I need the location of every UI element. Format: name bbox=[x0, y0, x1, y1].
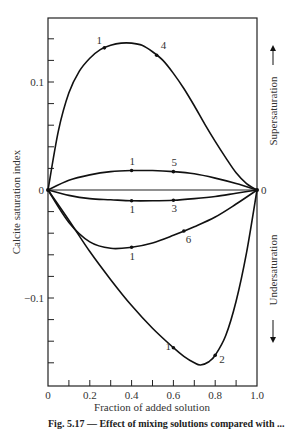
curve-point-label: 2 bbox=[219, 353, 225, 365]
undersaturation-label: Undersaturation bbox=[267, 234, 279, 305]
arrow-marker-icon bbox=[172, 170, 176, 174]
curve-point-label: 1 bbox=[130, 203, 136, 215]
y-tick-label: 0.1 bbox=[30, 76, 44, 88]
end-point bbox=[255, 188, 259, 192]
curve-labels: 1415131612 bbox=[46, 34, 259, 365]
supersaturation-label: Supersaturation bbox=[267, 76, 279, 146]
x-tick-label: 0 bbox=[45, 389, 51, 401]
x-tick-label: 0.8 bbox=[208, 389, 222, 401]
x-tick-label: 1.0 bbox=[250, 389, 264, 401]
curve-point-label: 6 bbox=[186, 233, 192, 245]
y-axis-title: Calcite saturation index bbox=[10, 149, 22, 254]
curve-point-label: 3 bbox=[171, 202, 177, 214]
x-axis-title: Fraction of added solution bbox=[94, 401, 210, 413]
y-tick-label: −0.1 bbox=[24, 292, 44, 304]
plot-frame bbox=[48, 18, 257, 386]
curve-point-label: 1 bbox=[165, 340, 171, 352]
arrow-marker-icon bbox=[155, 53, 159, 57]
chart: 00.20.40.60.81.00.10−0.1 1415131612 Calc… bbox=[0, 0, 294, 415]
right-zero-label: 0 bbox=[261, 184, 267, 196]
curve-1-2 bbox=[48, 190, 257, 365]
x-tick-label: 0.4 bbox=[125, 389, 139, 401]
curve-1-6 bbox=[48, 190, 257, 249]
arrow-marker-icon bbox=[130, 169, 134, 173]
curve-point-label: 1 bbox=[96, 34, 102, 46]
curve-point-label: 5 bbox=[171, 156, 177, 168]
arrow-marker-icon bbox=[172, 346, 176, 350]
axis-ticks bbox=[48, 39, 236, 386]
curves bbox=[48, 43, 257, 365]
curve-1-5 bbox=[48, 170, 257, 190]
curve-1-4 bbox=[48, 43, 257, 190]
arrow-marker-icon bbox=[103, 46, 107, 50]
curve-1-3 bbox=[48, 190, 257, 201]
curve-point-label: 1 bbox=[130, 155, 136, 167]
arrow-marker-icon bbox=[130, 245, 134, 249]
figure-caption: Fig. 5.17 — Effect of mixing solutions c… bbox=[48, 418, 284, 429]
x-tick-label: 0.2 bbox=[83, 389, 97, 401]
arrow-marker-icon bbox=[213, 353, 217, 357]
y-tick-label: 0 bbox=[39, 184, 45, 196]
curve-point-label: 1 bbox=[130, 250, 136, 262]
x-tick-label: 0.6 bbox=[167, 389, 181, 401]
origin-point bbox=[46, 188, 50, 192]
curve-point-label: 4 bbox=[161, 39, 167, 51]
